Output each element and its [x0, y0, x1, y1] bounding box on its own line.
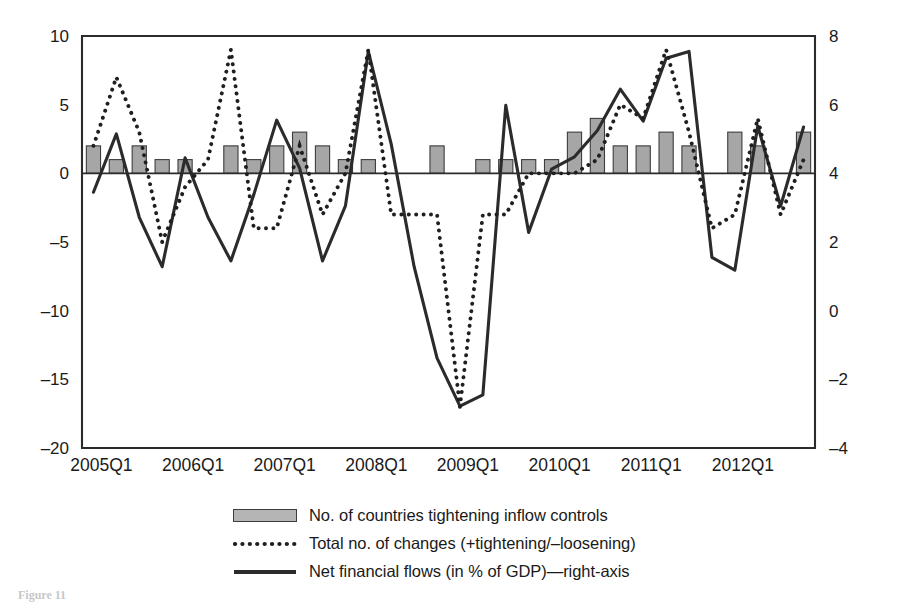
- bar: [430, 146, 444, 173]
- dotted-line-swatch-icon: [232, 537, 298, 551]
- right-axis-tick: 4: [829, 164, 838, 183]
- left-axis-tick: 5: [60, 96, 69, 115]
- x-axis-tick: 2009Q1: [437, 455, 499, 475]
- solid-line-swatch-icon: [232, 565, 298, 579]
- left-axis-tick: –10: [41, 302, 69, 321]
- right-axis-tick-labels: 86420–2–4: [829, 27, 848, 458]
- chart-legend: No. of countries tightening inflow contr…: [232, 503, 752, 587]
- bar: [476, 160, 490, 174]
- legend-label-total-changes: Total no. of changes (+tightening/–loose…: [309, 534, 636, 553]
- x-axis-tick: 2011Q1: [621, 455, 682, 475]
- bar-swatch-icon: [232, 509, 298, 523]
- bar: [224, 146, 238, 173]
- x-axis-tick: 2007Q1: [254, 455, 316, 475]
- left-axis-tick-labels: 1050–5–10–15–20: [41, 27, 69, 458]
- left-axis-tick: –15: [41, 370, 69, 389]
- right-axis-tick: 0: [829, 302, 838, 321]
- bar: [315, 146, 329, 173]
- bar: [132, 146, 146, 173]
- bar: [728, 132, 742, 173]
- legend-item-countries-tightening: No. of countries tightening inflow contr…: [232, 503, 752, 528]
- bar: [636, 146, 650, 173]
- line-series-net-financial-flows: [93, 51, 803, 406]
- right-axis-tick: 8: [829, 27, 838, 46]
- bar: [155, 160, 169, 174]
- bar: [522, 160, 536, 174]
- plot-frame: [82, 36, 815, 448]
- x-axis-tick-labels: 2005Q12006Q12007Q12008Q12009Q12010Q12011…: [70, 455, 774, 475]
- bar: [361, 160, 375, 174]
- left-axis-tick: 10: [50, 27, 69, 46]
- legend-label-net-financial-flows: Net financial flows (in % of GDP)—right-…: [309, 562, 630, 581]
- bar: [247, 160, 261, 174]
- x-axis-tick: 2012Q1: [712, 455, 774, 475]
- bar: [109, 160, 123, 174]
- figure-container: 1050–5–10–15–20 86420–2–4 2005Q12006Q120…: [0, 0, 897, 612]
- bar: [659, 132, 673, 173]
- right-axis-tick: –4: [829, 439, 848, 458]
- bar: [86, 146, 100, 173]
- right-axis-tick: –2: [829, 370, 848, 389]
- left-axis-tick: –20: [41, 439, 69, 458]
- figure-caption: Figure 11: [18, 588, 66, 603]
- left-axis-tick: 0: [60, 164, 69, 183]
- bar: [270, 146, 284, 173]
- x-axis-tick: 2008Q1: [345, 455, 407, 475]
- x-axis-tick: 2005Q1: [70, 455, 132, 475]
- legend-item-net-financial-flows: Net financial flows (in % of GDP)—right-…: [232, 559, 752, 584]
- x-axis-tick: 2010Q1: [528, 455, 590, 475]
- right-axis-tick: 6: [829, 96, 838, 115]
- bar: [613, 146, 627, 173]
- bar: [590, 118, 604, 173]
- legend-item-total-changes: Total no. of changes (+tightening/–loose…: [232, 531, 752, 556]
- x-axis-tick: 2006Q1: [162, 455, 224, 475]
- right-axis-tick: 2: [829, 233, 838, 252]
- line-series-total-changes: [93, 50, 803, 407]
- left-axis-tick: –5: [50, 233, 69, 252]
- legend-label-countries-tightening: No. of countries tightening inflow contr…: [309, 506, 608, 525]
